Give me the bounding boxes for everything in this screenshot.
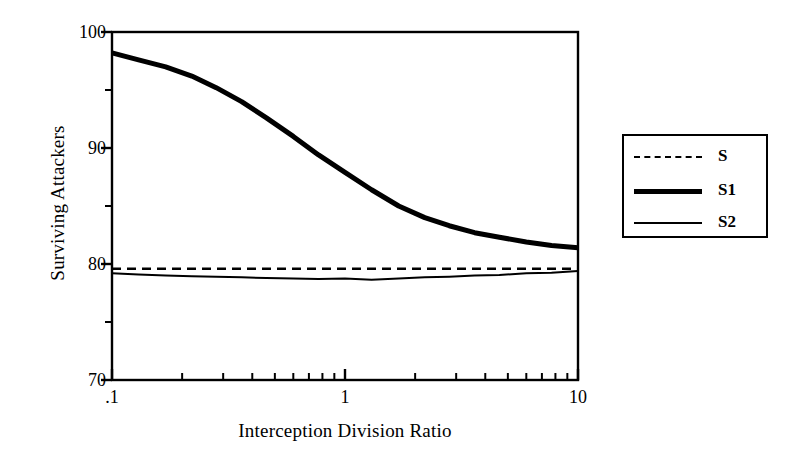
legend-swatch-thin (634, 222, 702, 224)
y-tick-label: 70 (62, 371, 106, 389)
legend-label-s2: S2 (718, 212, 736, 232)
chart-figure: Surviving Attackers Interception Divisio… (0, 0, 808, 466)
plot-frame (112, 32, 578, 380)
x-tick-label: 1 (315, 388, 375, 406)
legend-entry-s1: S1 (624, 178, 766, 204)
series-line-s1 (112, 53, 578, 248)
x-axis-title: Interception Division Ratio (112, 420, 578, 442)
legend-label-s1: S1 (718, 180, 736, 200)
x-tick-label: .1 (82, 388, 142, 406)
legend-label-s: S (718, 146, 727, 166)
y-tick-label: 80 (62, 255, 106, 273)
chart-legend: S S1 S2 (622, 134, 768, 238)
legend-swatch-thick (634, 189, 702, 194)
legend-entry-s: S (624, 144, 766, 170)
y-tick-label: 100 (62, 23, 106, 41)
legend-entry-s2: S2 (624, 210, 766, 236)
legend-swatch-dashed (634, 156, 702, 158)
series-line-s2 (112, 271, 578, 280)
x-tick-label: 10 (548, 388, 608, 406)
y-tick-label: 90 (62, 139, 106, 157)
